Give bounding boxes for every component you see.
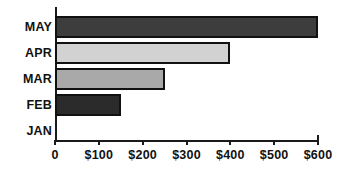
x-tick-label: $100	[85, 149, 114, 162]
category-label-jan: JAN	[4, 125, 52, 138]
bar-row: JAN	[0, 118, 342, 144]
x-tick-label: $300	[172, 149, 201, 162]
bar-apr	[55, 42, 230, 64]
category-label-may: MAY	[4, 21, 52, 34]
x-tick-label: $600	[304, 149, 333, 162]
bar-chart: MAYAPRMARFEBJAN 0$100$200$300$400$500$60…	[0, 0, 342, 171]
bar-row: APR	[0, 40, 342, 66]
category-label-apr: APR	[4, 47, 52, 60]
x-tick-label: $400	[216, 149, 245, 162]
x-tick-label: $200	[128, 149, 157, 162]
bar-row: FEB	[0, 92, 342, 118]
bar-row: MAR	[0, 66, 342, 92]
x-tick-label: $500	[260, 149, 289, 162]
category-label-feb: FEB	[4, 99, 52, 112]
bars-layer: MAYAPRMARFEBJAN	[0, 0, 342, 171]
x-tick-label: 0	[51, 149, 58, 162]
bar-row: MAY	[0, 14, 342, 40]
bar-mar	[55, 68, 165, 90]
category-label-mar: MAR	[4, 73, 52, 86]
bar-feb	[55, 94, 121, 116]
bar-may	[55, 16, 318, 38]
